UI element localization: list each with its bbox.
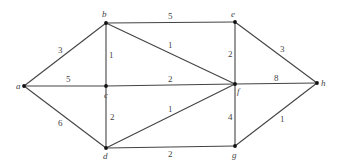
edge-weight-a-c: 5 — [66, 74, 71, 84]
node-label-e: e — [231, 9, 235, 19]
node-label-c: c — [104, 90, 108, 100]
edge-a-b — [24, 23, 106, 86]
edge-d-g — [106, 146, 235, 148]
node-label-b: b — [102, 9, 107, 19]
node-label-d: d — [103, 151, 108, 161]
node-label-f: f — [237, 86, 241, 96]
edge-g-h — [235, 83, 317, 146]
node-c — [104, 84, 108, 88]
node-label-g: g — [232, 150, 237, 160]
edge-weight-b-f: 1 — [168, 40, 173, 50]
edge-f-h — [235, 83, 317, 84]
edge-d-f — [106, 84, 235, 148]
edge-weight-b-e: 5 — [168, 11, 173, 21]
edge-weight-c-d: 2 — [110, 112, 115, 122]
node-e — [233, 20, 237, 24]
edge-weight-d-g: 2 — [168, 149, 173, 159]
node-a — [22, 84, 26, 88]
edge-weight-g-h: 1 — [280, 114, 285, 124]
edge-b-e — [106, 22, 235, 23]
edge-weight-c-f: 2 — [168, 74, 173, 84]
edge-weight-a-b: 3 — [58, 45, 63, 55]
node-g — [233, 144, 237, 148]
edge-a-d — [24, 86, 106, 148]
node-b — [104, 21, 108, 25]
edge-c-f — [106, 84, 235, 86]
node-label-h: h — [321, 78, 326, 88]
edge-weight-e-f: 2 — [228, 49, 233, 59]
node-h — [315, 81, 319, 85]
edge-weight-f-h: 8 — [274, 73, 279, 83]
node-label-a: a — [16, 81, 21, 91]
edge-weight-a-d: 6 — [58, 118, 63, 128]
edge-weight-b-c: 1 — [109, 50, 114, 60]
edge-weight-d-f: 1 — [168, 104, 173, 114]
node-d — [104, 146, 108, 150]
weighted-graph: 356125121224381 abcdefgh — [0, 0, 342, 165]
edge-weight-f-g: 4 — [228, 112, 233, 122]
edge-weight-e-h: 3 — [280, 44, 285, 54]
